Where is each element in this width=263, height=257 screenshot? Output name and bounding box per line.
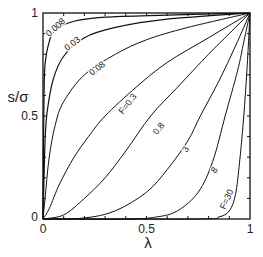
x-tick-label: 0 [40,222,47,236]
curve-label: 0.8 [151,121,167,137]
curve-label: 0.03 [62,34,82,53]
y-tick-label: 1 [31,6,38,20]
curve-label: 3 [180,144,191,154]
y-tick-label: 0 [31,210,38,224]
curve-label: 0.008 [44,16,67,39]
y-tick-label: 0.5 [21,109,38,123]
curve-label: 0.08 [87,59,107,78]
axes: 00.5100.51λs/σ [8,6,254,251]
x-tick-label: 1 [247,222,254,236]
chart: 00.5100.51λs/σ 0.0080.030.08F=0.30.838F=… [0,0,263,257]
curve-label: F=30 [218,188,236,211]
y-axis-title: s/σ [8,88,30,105]
curve-label: 8 [209,165,220,175]
curve-label: F=0.3 [116,92,138,116]
x-axis-title: λ [144,234,152,251]
labels: 0.0080.030.08F=0.30.838F=30 [44,16,236,211]
